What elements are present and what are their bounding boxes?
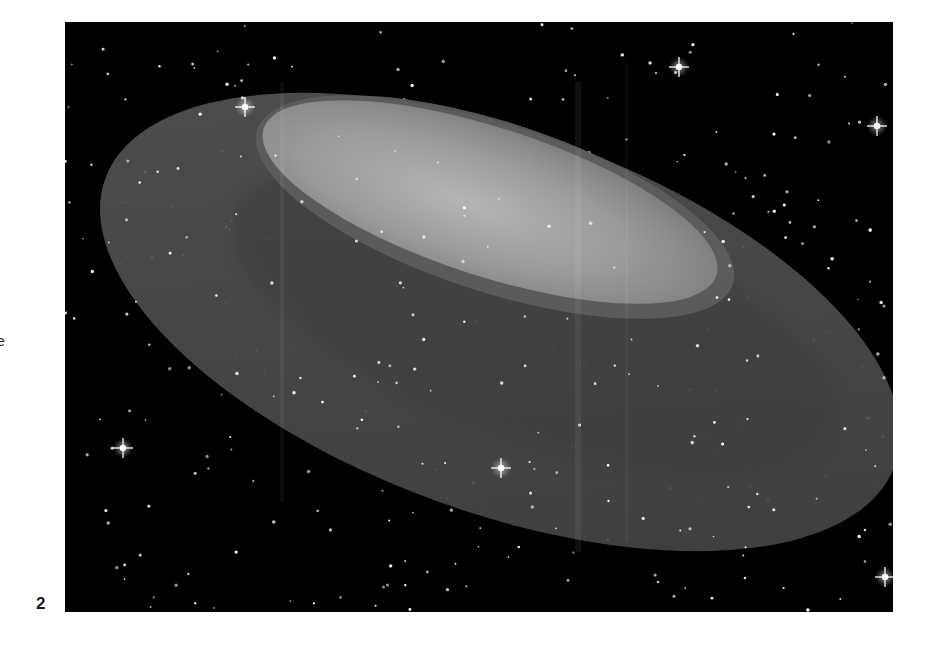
clipped-margin-text: e <box>0 333 5 349</box>
figure-canvas <box>65 22 893 612</box>
figure-number: 2 <box>36 594 45 614</box>
torus-starfield-figure <box>65 22 893 612</box>
